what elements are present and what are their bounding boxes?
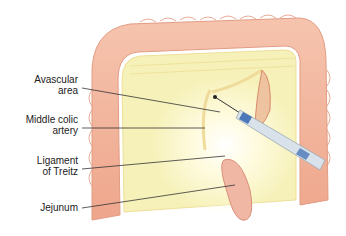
label-avascular-area: Avascular area [0, 74, 78, 96]
label-middle-colic-artery: Middle colic artery [0, 114, 78, 136]
label-jejunum: Jejunum [0, 202, 78, 213]
label-ligament-of-treitz: Ligament of Treitz [0, 155, 78, 177]
